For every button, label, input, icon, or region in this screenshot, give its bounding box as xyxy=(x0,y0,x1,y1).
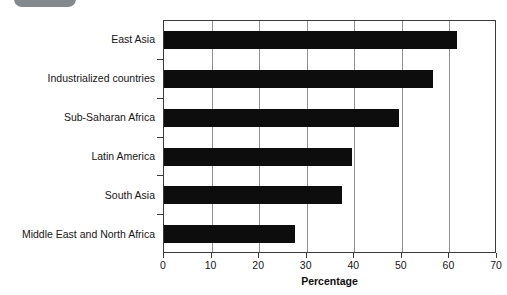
category-tick xyxy=(157,137,163,138)
category-label: Latin America xyxy=(0,150,155,162)
category-label: Middle East and North Africa xyxy=(0,228,155,240)
category-label: Industrialized countries xyxy=(0,72,155,84)
x-tick xyxy=(448,253,449,258)
x-tick-label: 30 xyxy=(291,259,321,272)
x-tick xyxy=(353,253,354,258)
x-tick-label: 50 xyxy=(386,259,416,272)
category-tick xyxy=(157,214,163,215)
x-tick xyxy=(163,253,164,258)
category-label: South Asia xyxy=(0,189,155,201)
category-label: Sub-Saharan Africa xyxy=(0,111,155,123)
x-tick-label: 0 xyxy=(148,259,178,272)
x-tick xyxy=(306,253,307,258)
x-tick-label: 20 xyxy=(243,259,273,272)
x-tick xyxy=(401,253,402,258)
category-label: East Asia xyxy=(0,33,155,45)
x-tick xyxy=(496,253,497,258)
x-tick xyxy=(258,253,259,258)
x-tick-label: 60 xyxy=(433,259,463,272)
x-tick-label: 10 xyxy=(196,259,226,272)
x-axis-title: Percentage xyxy=(163,275,496,287)
x-tick-label: 40 xyxy=(338,259,368,272)
category-tick xyxy=(157,175,163,176)
x-tick xyxy=(211,253,212,258)
x-tick-label: 70 xyxy=(481,259,507,272)
category-tick xyxy=(157,98,163,99)
category-tick xyxy=(157,59,163,60)
category-axis-labels: East AsiaIndustrialized countriesSub-Sah… xyxy=(0,20,502,253)
